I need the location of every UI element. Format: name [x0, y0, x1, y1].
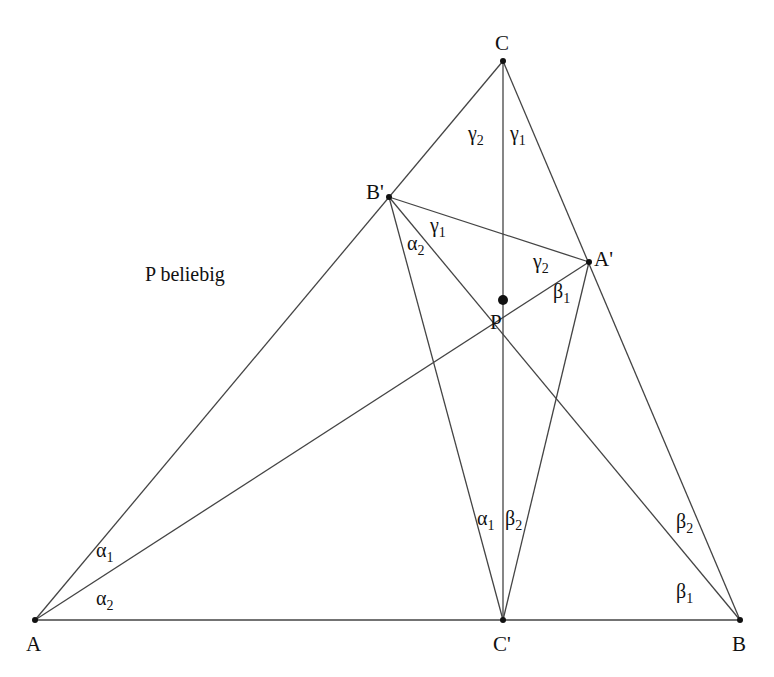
label-p: P — [490, 310, 502, 334]
label-cprime: C' — [493, 632, 511, 656]
side-aprime-cprime — [503, 262, 589, 620]
label-a: A — [26, 632, 42, 656]
label-bprime: B' — [366, 180, 384, 204]
label-c: C — [495, 31, 509, 55]
label-b: B — [732, 632, 746, 656]
points — [32, 58, 743, 623]
cevian-b-bprime — [389, 197, 740, 620]
note-p-arbitrary: P beliebig — [145, 263, 225, 286]
side-bprime-cprime — [389, 197, 503, 620]
angle-alpha2-at-a: α2 — [96, 587, 113, 613]
geometry-diagram: A B C C' B' A' P P beliebig γ2 γ1 γ1 α2 … — [0, 0, 774, 677]
point-b — [737, 617, 743, 623]
angle-alpha1-at-a: α1 — [96, 539, 113, 565]
point-aprime — [586, 259, 592, 265]
angle-gamma1-at-bprime: γ1 — [429, 214, 446, 240]
point-a — [32, 617, 38, 623]
triangle-aprime-bprime-cprime — [389, 197, 589, 620]
angle-gamma2-at-aprime: γ2 — [532, 250, 549, 276]
angle-beta1-at-b: β1 — [676, 580, 693, 606]
cevians — [35, 61, 740, 620]
cevian-a-aprime — [35, 262, 589, 620]
point-p — [498, 295, 508, 305]
angle-labels: γ2 γ1 γ1 α2 γ2 β1 α1 β2 α1 α2 β2 β1 — [96, 122, 693, 613]
label-aprime: A' — [594, 247, 613, 271]
point-bprime — [386, 194, 392, 200]
side-ac — [35, 61, 503, 620]
angle-beta2-at-cprime: β2 — [505, 507, 522, 533]
angle-gamma2-at-c: γ2 — [467, 122, 484, 148]
point-cprime — [500, 617, 506, 623]
side-bc — [503, 61, 740, 620]
angle-beta1-at-aprime: β1 — [553, 280, 570, 306]
triangle-abc — [35, 61, 740, 620]
angle-beta2-at-b: β2 — [676, 510, 693, 536]
angle-gamma1-at-c: γ1 — [509, 122, 526, 148]
point-c — [500, 58, 506, 64]
point-labels: A B C C' B' A' P — [26, 31, 746, 656]
angle-alpha1-at-cprime: α1 — [477, 507, 494, 533]
